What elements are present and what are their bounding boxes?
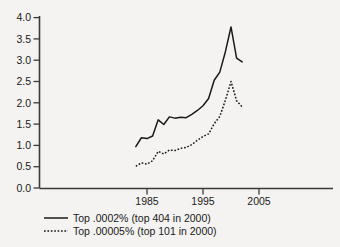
- legend-label-2: Top .00005% (top 101 in 2000): [73, 225, 217, 237]
- legend-label-1: Top .0002% (top 404 in 2000): [73, 212, 211, 224]
- chart-figure: 0.00.51.01.52.02.53.03.54.0 198519952005…: [0, 0, 340, 247]
- legend: Top .0002% (top 404 in 2000)Top .00005% …: [0, 0, 340, 247]
